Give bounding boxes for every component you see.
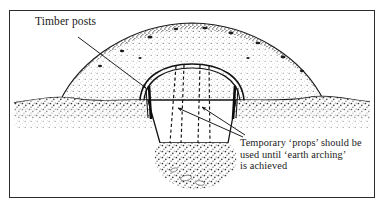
temporary-props-label: Temporary ‘props’ should be used until ‘… — [240, 137, 380, 172]
props-label-line-3: is achieved — [240, 160, 380, 172]
props-label-line-1: Temporary ‘props’ should be — [240, 137, 380, 149]
earth-mound — [60, 23, 324, 101]
diagram-artwork — [0, 0, 384, 210]
timber-posts-label: Timber posts — [35, 15, 96, 27]
trench-excavation — [148, 100, 236, 143]
figure-canvas: Timber posts Temporary ‘props’ should be… — [0, 0, 384, 210]
props-label-line-2: used until ‘earth arching’ — [240, 149, 380, 161]
rubble-fill — [155, 143, 237, 189]
